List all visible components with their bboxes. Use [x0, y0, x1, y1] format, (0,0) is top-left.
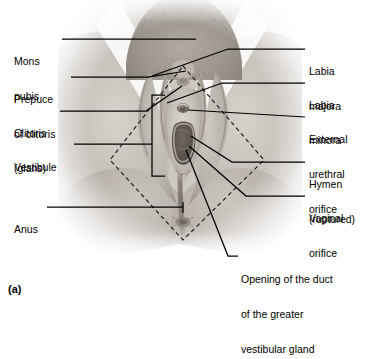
label-greater-vestibular-gland: Opening of the duct of the greater vesti…	[241, 251, 333, 359]
label-anus-line1: Anus	[14, 224, 38, 236]
label-greater-vestibular-gland-line2: of the greater	[241, 309, 333, 321]
label-vestibule-line1: Vestibule	[14, 162, 57, 174]
label-anus: Anus	[14, 201, 38, 259]
figure-caption: (a)	[8, 283, 21, 295]
label-greater-vestibular-gland-line3: vestibular gland	[241, 344, 333, 356]
anatomy-photograph	[22, 0, 340, 292]
label-vestibule: Vestibule	[14, 139, 57, 197]
label-vaginal-orifice-line1: Vaginal	[309, 213, 343, 225]
label-mons-pubis-line1: Mons	[14, 56, 40, 68]
label-greater-vestibular-gland-line1: Opening of the duct	[241, 274, 333, 286]
label-external-urethral-orifice-line1: External	[309, 134, 348, 146]
